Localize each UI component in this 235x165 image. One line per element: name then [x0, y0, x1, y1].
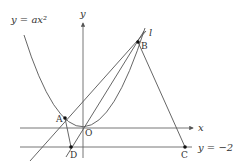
point-c-label: C — [181, 150, 188, 160]
horizontal-line-label: y = −2 — [197, 142, 233, 153]
point-d — [69, 145, 73, 149]
x-axis-label: x — [198, 122, 204, 133]
point-a — [63, 116, 67, 120]
point-b-label: B — [141, 41, 148, 51]
line-l — [30, 31, 146, 161]
parabola-diagram: y = ax² y x l y = −2 A B C D O — [0, 0, 235, 165]
curve-label: y = ax² — [10, 14, 47, 25]
y-axis-label: y — [79, 8, 86, 19]
point-d-label: D — [70, 150, 77, 160]
line-l-label: l — [149, 27, 152, 38]
origin-label: O — [85, 128, 92, 138]
point-c — [183, 145, 187, 149]
parabola-curve — [24, 28, 145, 127]
point-a-label: A — [55, 114, 63, 124]
line-db — [66, 31, 144, 157]
point-b — [136, 40, 140, 44]
segment-bc — [138, 42, 185, 147]
